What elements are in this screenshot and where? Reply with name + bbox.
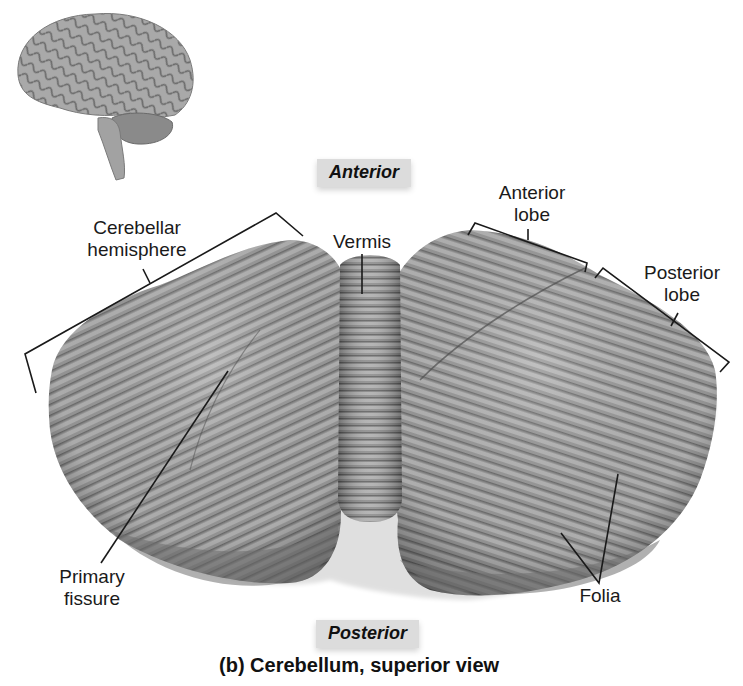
folia-label: Folia (570, 585, 630, 607)
vermis-label: Vermis (322, 231, 402, 253)
brain-inset (18, 13, 193, 180)
figure: Anterior Posterior Cerebellar hemisphere… (0, 0, 743, 686)
anterior-orientation-label: Anterior (317, 159, 411, 187)
left-cerebellar-hemisphere (49, 240, 345, 583)
anterior-lobe-label: Anterior lobe (482, 182, 582, 226)
posterior-lobe-label: Posterior lobe (632, 262, 732, 306)
cerebellar-hemisphere-label: Cerebellar hemisphere (72, 217, 202, 261)
vermis (338, 255, 402, 522)
posterior-orientation-label: Posterior (316, 620, 419, 648)
figure-caption: (b) Cerebellum, superior view (219, 654, 499, 677)
primary-fissure-label: Primary fissure (42, 566, 142, 610)
